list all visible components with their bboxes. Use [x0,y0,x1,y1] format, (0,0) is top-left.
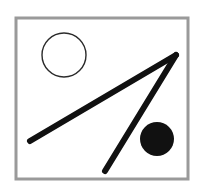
filled-circle-shape [140,122,174,156]
figure-canvas [0,0,202,184]
figure-svg [0,0,202,184]
